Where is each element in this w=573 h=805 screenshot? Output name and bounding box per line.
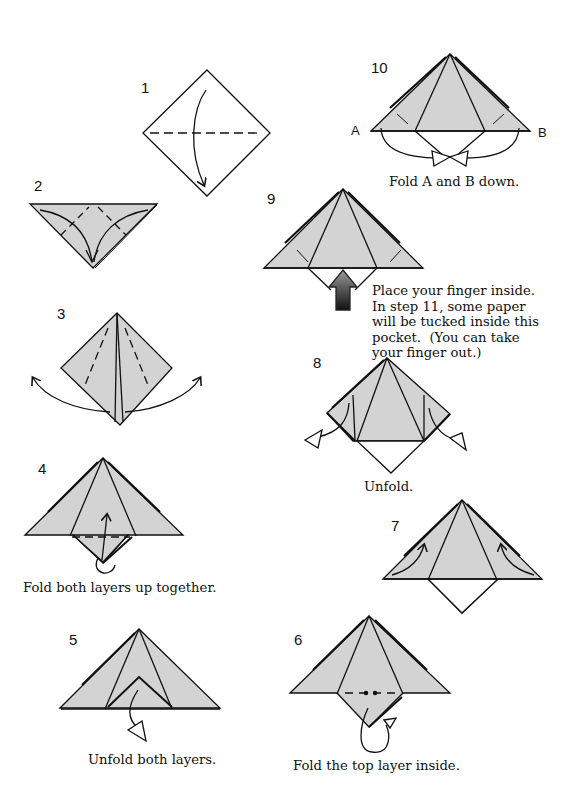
step-number-10: 10 (371, 60, 388, 75)
point-label-b: B (538, 126, 547, 139)
step-number-5: 5 (69, 632, 77, 647)
step-5-diagram (60, 629, 220, 741)
caption-step-6: Fold the top layer inside. (293, 758, 460, 774)
caption-step-9: Place your finger inside. In step 11, so… (372, 283, 539, 361)
step-3-diagram (33, 313, 200, 425)
step-4-diagram (25, 458, 183, 573)
step-number-2: 2 (34, 178, 42, 193)
step-8-diagram (305, 358, 466, 473)
diagram-drawings (0, 0, 573, 805)
step-2-diagram (30, 204, 157, 268)
step-10-diagram (371, 54, 530, 166)
caption-step-5: Unfold both layers. (88, 752, 216, 768)
step-6-diagram (290, 616, 450, 752)
caption-step-9-line-4: pocket. (You can take (372, 330, 539, 346)
step-number-3: 3 (57, 306, 65, 321)
step-number-7: 7 (391, 518, 399, 533)
caption-step-10: Fold A and B down. (389, 174, 519, 190)
step-number-6: 6 (294, 632, 302, 647)
caption-step-9-line-1: Place your finger inside. (372, 283, 539, 299)
origami-diagram-page: 1 2 3 4 5 6 7 8 9 10 A B Fold A and B do… (0, 0, 573, 805)
step-1-diagram (143, 70, 270, 196)
point-label-a: A (351, 124, 360, 137)
step-number-4: 4 (38, 461, 46, 476)
step-7-diagram (383, 500, 542, 613)
caption-step-9-line-5: your finger out.) (372, 345, 539, 361)
caption-step-9-line-2: In step 11, some paper (372, 299, 539, 315)
caption-step-9-line-3: will be tucked inside this (372, 314, 539, 330)
step-number-8: 8 (313, 355, 321, 370)
step-number-1: 1 (141, 80, 149, 95)
caption-step-4: Fold both layers up together. (23, 580, 216, 596)
step-number-9: 9 (267, 191, 275, 206)
caption-step-8: Unfold. (364, 479, 413, 495)
